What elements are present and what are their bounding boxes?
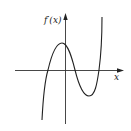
y-axis-arrow-icon [63,13,67,20]
f-prime-curve [42,17,102,120]
chart: f′(x) x [0,0,131,131]
y-axis-label: f′(x) [43,15,62,25]
x-axis-label: x [114,72,119,82]
